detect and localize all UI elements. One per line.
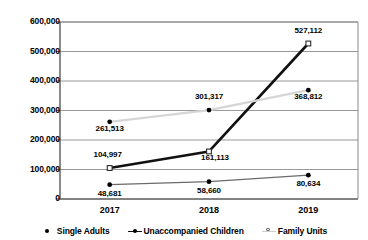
- y-axis-tick-labels: 0100,000200,000300,000400,000500,000600,…: [0, 0, 60, 240]
- chart-legend: Single Adults Unaccompanied Children Fam…: [0, 222, 368, 240]
- data-point-label: 58,660: [183, 186, 235, 195]
- x-axis-tick-label: 2018: [179, 205, 239, 215]
- y-axis-tick-label: 0: [2, 194, 60, 203]
- data-point-label: 261,513: [84, 124, 136, 133]
- legend-label-unaccompanied-children: Unaccompanied Children: [144, 226, 244, 236]
- data-point-label: 368,812: [282, 92, 334, 101]
- y-axis-tick-label: 200,000: [2, 135, 60, 144]
- legend-item-unaccompanied-children[interactable]: Unaccompanied Children: [128, 226, 244, 236]
- legend-marker-family-units-icon: [262, 227, 276, 235]
- y-axis-tick-label: 300,000: [2, 106, 60, 115]
- data-point-label: 161,113: [189, 153, 241, 162]
- x-axis-tick-label: 2019: [278, 205, 338, 215]
- legend-label-single-adults: Single Adults: [57, 226, 110, 236]
- y-axis-tick-label: 400,000: [2, 76, 60, 85]
- legend-marker-single-adults-icon: [41, 227, 55, 235]
- y-axis-tick-label: 600,000: [2, 17, 60, 26]
- chart-container: 0100,000200,000300,000400,000500,000600,…: [0, 0, 368, 240]
- legend-label-family-units: Family Units: [278, 226, 327, 236]
- data-point-label: 104,997: [82, 150, 134, 159]
- data-point-label: 80,634: [282, 179, 334, 188]
- legend-marker-unaccompanied-children-icon: [128, 227, 142, 235]
- data-point-label: 301,317: [183, 92, 235, 101]
- legend-item-family-units[interactable]: Family Units: [262, 226, 327, 236]
- y-axis-tick-label: 500,000: [2, 47, 60, 56]
- legend-item-single-adults[interactable]: Single Adults: [41, 226, 110, 236]
- series-markers: [107, 41, 310, 187]
- data-point-label: 527,112: [282, 26, 334, 35]
- y-axis-tick-label: 100,000: [2, 165, 60, 174]
- data-point-label: 48,681: [84, 189, 136, 198]
- x-axis-tick-label: 2017: [80, 205, 140, 215]
- series-lines: [110, 44, 309, 185]
